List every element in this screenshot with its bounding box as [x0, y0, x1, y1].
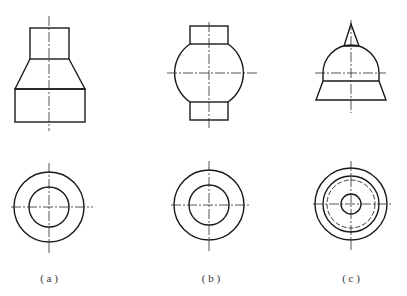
orthographic-views-diagram: ( a ) ( b ) ( c ): [0, 0, 407, 296]
label-c: ( c ): [342, 272, 360, 285]
panel-c-top-view: [313, 161, 392, 250]
label-b: ( b ): [202, 272, 221, 285]
panel-c-front-view: [315, 20, 386, 113]
panel-a-top-view: [11, 163, 93, 253]
panel-a-front-view: [15, 16, 85, 131]
panel-b-front-view: [167, 22, 257, 130]
panel-b-top-view: [171, 161, 251, 252]
label-a: ( a ): [40, 272, 58, 285]
